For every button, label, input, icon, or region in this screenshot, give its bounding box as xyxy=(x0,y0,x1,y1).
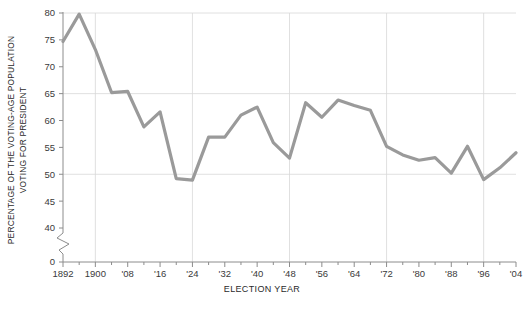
x-tick-label: '64 xyxy=(348,268,360,279)
x-tick-label: '24 xyxy=(186,268,198,279)
y-tick-label: 55 xyxy=(44,142,55,153)
axes xyxy=(57,12,516,262)
y-tick-label: 40 xyxy=(44,222,55,233)
y-axis-title-line-1: PERCENTAGE OF THE VOTING-AGE POPULATION xyxy=(6,36,16,244)
y-tick-label: 50 xyxy=(44,169,55,180)
x-tick-label: '80 xyxy=(413,268,425,279)
x-tick-label: '04 xyxy=(510,268,522,279)
voter-turnout-chart: 8075706560555045400 18921900'08'16'24'32… xyxy=(0,0,526,311)
y-tick-label: 70 xyxy=(44,61,55,72)
x-tick-label: '56 xyxy=(316,268,328,279)
x-tick-label: '32 xyxy=(219,268,231,279)
y-tick-label: 65 xyxy=(44,88,55,99)
x-axis-title: ELECTION YEAR xyxy=(224,284,301,294)
x-tick-label: '48 xyxy=(283,268,295,279)
gridlines xyxy=(63,13,516,262)
y-axis-title: PERCENTAGE OF THE VOTING-AGE POPULATION … xyxy=(6,36,28,244)
y-axis-break-symbol xyxy=(57,233,69,254)
x-tick-label: 1900 xyxy=(85,268,106,279)
x-tick-label: '40 xyxy=(251,268,263,279)
y-axis-title-line-2: VOTING FOR PRESIDENT xyxy=(18,87,28,193)
x-tick-label: '88 xyxy=(445,268,457,279)
y-tick-label: 75 xyxy=(44,34,55,45)
y-tick-label: 45 xyxy=(44,196,55,207)
y-tick-label: 60 xyxy=(44,115,55,126)
y-tick-label: 0 xyxy=(50,256,55,267)
x-tick-label: '96 xyxy=(477,268,489,279)
x-tick-label: 1892 xyxy=(52,268,73,279)
x-tick-label: '16 xyxy=(154,268,166,279)
x-tick-label: '72 xyxy=(380,268,392,279)
x-tick-label: '08 xyxy=(122,268,134,279)
y-tick-label: 80 xyxy=(44,7,55,18)
x-axis-ticks: 18921900'08'16'24'32'40'48'56'64'72'80'8… xyxy=(52,262,522,279)
chart-canvas: 8075706560555045400 18921900'08'16'24'32… xyxy=(0,0,526,311)
y-axis-ticks: 8075706560555045400 xyxy=(44,7,63,267)
